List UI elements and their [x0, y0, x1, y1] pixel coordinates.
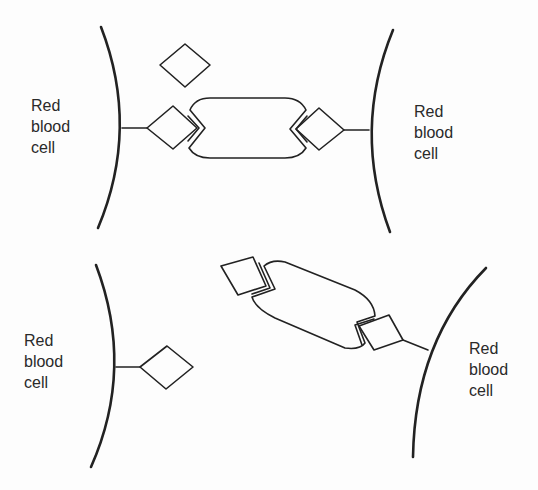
- label-line: Red: [24, 330, 63, 351]
- bottom-lower-antigen-square: [359, 315, 403, 350]
- label-line: Red: [414, 101, 453, 122]
- top-left-cell-label: Red blood cell: [31, 95, 70, 158]
- bottom-left-cell-label: Red blood cell: [24, 330, 63, 393]
- bottom-right-antigen-stalk: [403, 340, 428, 350]
- free-antigen-diamond: [160, 44, 210, 87]
- top-left-antigen-diamond: [147, 106, 197, 149]
- diagram-canvas: Red blood cell Red blood cell Red blood …: [0, 0, 538, 490]
- label-line: blood: [31, 116, 70, 137]
- label-line: cell: [24, 372, 63, 393]
- label-line: Red: [31, 95, 70, 116]
- bottom-left-cell-membrane: [91, 265, 114, 467]
- label-line: cell: [469, 380, 508, 401]
- bottom-antibody-outer: [252, 261, 375, 348]
- bottom-right-cell-label: Red blood cell: [469, 338, 508, 401]
- label-line: blood: [414, 122, 453, 143]
- label-line: blood: [469, 359, 508, 380]
- top-left-cell-membrane: [98, 27, 120, 228]
- bottom-left-antigen-diamond: [140, 346, 193, 389]
- top-antibody-outer: [189, 98, 306, 158]
- top-right-cell-label: Red blood cell: [414, 101, 453, 164]
- top-right-cell-membrane: [372, 30, 393, 232]
- label-line: blood: [24, 351, 63, 372]
- label-line: cell: [31, 137, 70, 158]
- agglutination-diagram: [0, 0, 538, 490]
- bottom-antibody-complex: [221, 257, 428, 350]
- label-line: cell: [414, 143, 453, 164]
- label-line: Red: [469, 338, 508, 359]
